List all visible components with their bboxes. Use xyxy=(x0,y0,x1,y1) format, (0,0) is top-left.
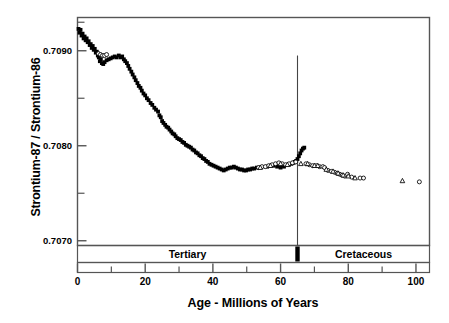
era-band xyxy=(295,247,299,262)
y-tick-label: 0.7080 xyxy=(24,140,72,151)
x-tick-label: 100 xyxy=(396,276,436,287)
data-point xyxy=(79,28,83,32)
data-point xyxy=(156,110,160,114)
y-tick-label: 0.7090 xyxy=(24,45,72,56)
plot-frame xyxy=(78,18,430,273)
era-label-tertiary: Tertiary xyxy=(128,248,248,260)
x-tick-label: 60 xyxy=(261,276,301,287)
data-point xyxy=(302,146,306,150)
data-point xyxy=(400,178,405,182)
data-point xyxy=(417,180,421,184)
strontium-isotope-chart: Strontium-87 / Strontium-86 Age - Millio… xyxy=(0,0,449,323)
y-tick-label: 0.7070 xyxy=(24,235,72,246)
data-points xyxy=(77,27,422,184)
x-tick-label: 80 xyxy=(328,276,368,287)
x-tick-label: 40 xyxy=(193,276,233,287)
data-point xyxy=(105,53,109,57)
data-point xyxy=(279,166,283,170)
data-point xyxy=(294,160,298,164)
axis-ticks xyxy=(78,22,416,272)
data-point xyxy=(99,57,103,61)
x-tick-label: 0 xyxy=(58,276,98,287)
data-point xyxy=(362,176,366,180)
x-tick-label: 20 xyxy=(125,276,165,287)
data-point xyxy=(299,161,304,165)
era-label-cretaceous: Cretaceous xyxy=(304,248,424,260)
data-point xyxy=(159,115,163,119)
